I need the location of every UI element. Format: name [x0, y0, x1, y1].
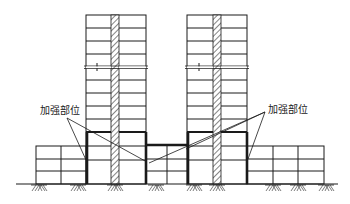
left-podium: [36, 146, 86, 184]
right-podium: [247, 146, 324, 184]
middle-podium: [146, 145, 188, 184]
right-shear-wall: [213, 15, 221, 184]
structure-diagram: 加强部位 加强部位: [0, 0, 350, 204]
label-strengthened-right: 加强部位: [268, 103, 308, 115]
foundation-supports: [31, 185, 334, 191]
label-strengthened-left: 加强部位: [40, 104, 80, 116]
leader-lines-left: [67, 118, 147, 162]
left-shear-wall: [111, 15, 119, 184]
